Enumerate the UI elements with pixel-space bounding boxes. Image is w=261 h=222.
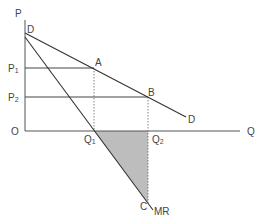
- p2-label: P2: [8, 92, 19, 103]
- y-axis-label: P: [15, 8, 22, 19]
- q2-label: Q2: [152, 134, 164, 145]
- demand-curve: [25, 33, 186, 117]
- point-a-label: A: [95, 57, 102, 68]
- mr-curve: [25, 37, 153, 210]
- x-axis-label: Q: [247, 126, 255, 137]
- p1-label: P1: [8, 63, 19, 74]
- point-c-label: C: [140, 201, 147, 212]
- mr-label: MR: [154, 206, 170, 217]
- origin-label: O: [11, 126, 19, 137]
- demand-end-label: D: [188, 114, 195, 125]
- q1-label: Q1: [84, 134, 96, 145]
- point-b-label: B: [148, 87, 155, 98]
- demand-intercept-label: D: [27, 24, 34, 35]
- demand-mr-diagram: P Q O D A B C D MR P1 P2 Q1 Q2: [0, 0, 261, 222]
